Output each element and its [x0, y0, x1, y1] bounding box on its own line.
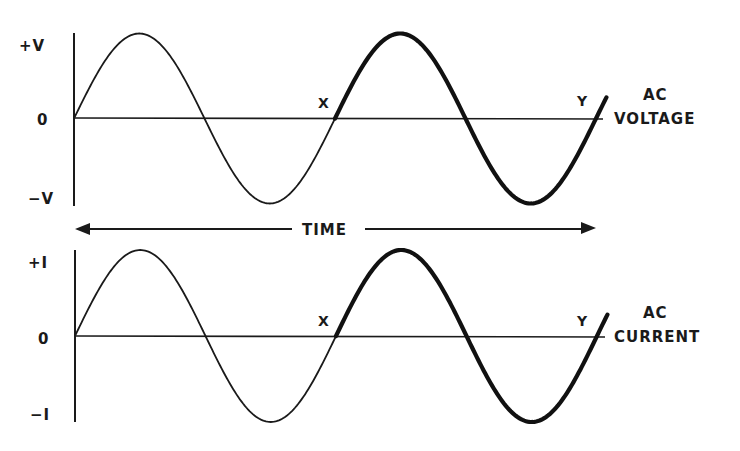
arrow-left-icon	[75, 223, 90, 235]
voltage-zero-line	[74, 118, 603, 119]
voltage-plus-label: +V	[19, 37, 45, 55]
voltage-minus-label: −V	[28, 190, 54, 208]
current-zero-label: 0	[38, 330, 49, 348]
voltage-zero-label: 0	[37, 111, 48, 129]
voltage-title-line1: AC	[643, 86, 668, 104]
current-title-line1: AC	[643, 304, 668, 322]
voltage-marker-x: X	[318, 95, 329, 111]
current-minus-label: −I	[30, 406, 50, 424]
time-label: TIME	[302, 221, 347, 239]
current-marker-y: Y	[576, 313, 588, 329]
current-plus-label: +I	[28, 254, 48, 272]
current-title-line2: CURRENT	[614, 328, 700, 346]
ac-waveform-diagram: +V 0 −V X Y AC VOLTAGE TIME +I 0 −I X Y …	[0, 0, 740, 451]
current-marker-x: X	[318, 313, 329, 329]
arrow-right-icon	[581, 222, 596, 234]
time-axis: TIME	[75, 221, 596, 239]
voltage-marker-y: Y	[576, 93, 588, 109]
current-zero-line	[75, 336, 605, 337]
current-panel: +I 0 −I X Y AC CURRENT	[28, 250, 700, 424]
voltage-panel: +V 0 −V X Y AC VOLTAGE	[19, 33, 695, 208]
voltage-title-line2: VOLTAGE	[614, 110, 695, 128]
